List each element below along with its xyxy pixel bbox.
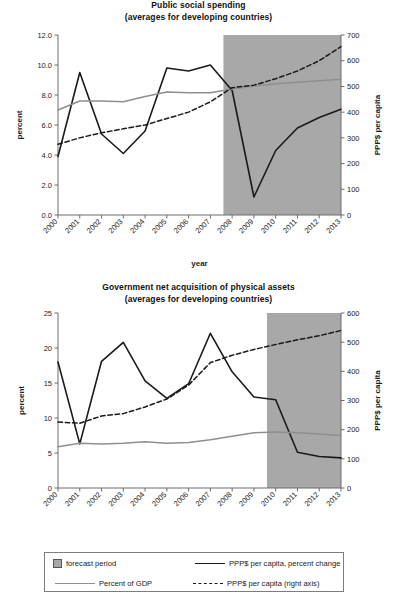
x-axis-tick-label: 2002 bbox=[85, 490, 103, 508]
x-axis-tick-label: 2003 bbox=[107, 217, 125, 235]
x-axis-tick-label: 2004 bbox=[128, 217, 146, 235]
x-axis-tick-label: 2002 bbox=[85, 217, 103, 235]
chart-panel-government-net-acquisition: Government net acquisition of physical a… bbox=[0, 282, 397, 532]
right-axis-tick-label: 100 bbox=[347, 185, 360, 194]
x-axis-tick-label: 2013 bbox=[324, 217, 342, 235]
right-axis-tick-label: 0 bbox=[347, 484, 351, 493]
x-axis-tick-label: 2004 bbox=[128, 490, 146, 508]
legend-label-ppp-level: PPP$ per capita (right axis) bbox=[227, 579, 319, 588]
solid-gray-line-icon bbox=[55, 583, 95, 584]
right-axis-tick-label: 100 bbox=[347, 455, 360, 464]
right-axis-tick-label: 700 bbox=[347, 31, 360, 40]
legend-row-1: forecast period PPP$ per capita, percent… bbox=[45, 553, 343, 573]
forecast-swatch-icon bbox=[53, 559, 62, 568]
legend-label-forecast-period: forecast period bbox=[66, 559, 116, 568]
x-axis-tick-label: 2010 bbox=[259, 490, 277, 508]
right-axis-tick-label: 600 bbox=[347, 309, 360, 318]
left-axis-tick-label: 25 bbox=[44, 309, 52, 318]
left-axis-tick-label: 2.0 bbox=[42, 181, 52, 190]
chart-title-top-line2: (averages for developing countries) bbox=[14, 12, 383, 24]
x-axis-tick-label: 2007 bbox=[194, 490, 212, 508]
right-axis-title: PPP$ per capita bbox=[373, 370, 382, 431]
chart-title-bottom-line2: (averages for developing countries) bbox=[14, 294, 383, 306]
right-axis-tick-label: 0 bbox=[347, 211, 351, 220]
left-axis-tick-label: 4.0 bbox=[42, 151, 52, 160]
chart-svg-bottom: 0510152025010020030040050060020002001200… bbox=[0, 305, 397, 530]
left-axis-tick-label: 8.0 bbox=[42, 91, 52, 100]
left-axis-tick-label: 5 bbox=[48, 449, 52, 458]
x-axis-tick-label: 2006 bbox=[172, 217, 190, 235]
right-axis-tick-label: 400 bbox=[347, 367, 360, 376]
left-axis-tick-label: 20 bbox=[44, 344, 52, 353]
right-axis-tick-label: 300 bbox=[347, 134, 360, 143]
x-axis-tick-label: 2008 bbox=[215, 490, 233, 508]
legend-item-percent-of-gdp: Percent of GDP bbox=[55, 573, 152, 593]
x-axis-tick-label: 2001 bbox=[63, 217, 81, 235]
right-axis-tick-label: 200 bbox=[347, 159, 360, 168]
x-axis-tick-label: 2000 bbox=[41, 217, 59, 235]
right-axis-tick-label: 500 bbox=[347, 338, 360, 347]
x-axis-tick-label: 2005 bbox=[150, 490, 168, 508]
chart-svg-top: 0.02.04.06.08.010.012.001002003004005006… bbox=[0, 23, 397, 273]
right-axis-tick-label: 400 bbox=[347, 108, 360, 117]
left-axis-tick-label: 6.0 bbox=[42, 121, 52, 130]
x-axis-tick-label: 2000 bbox=[41, 490, 59, 508]
legend-row-2: Percent of GDP PPP$ per capita (right ax… bbox=[45, 573, 343, 593]
dashed-black-line-icon bbox=[193, 583, 223, 584]
plot-area-top: 0.02.04.06.08.010.012.001002003004005006… bbox=[0, 23, 397, 273]
chart-panel-public-social-spending: Public social spending (averages for dev… bbox=[0, 0, 397, 282]
chart-title-top-line1: Public social spending bbox=[14, 0, 383, 12]
left-axis-title: percent bbox=[15, 110, 24, 139]
x-axis-tick-label: 2009 bbox=[237, 490, 255, 508]
right-axis-tick-label: 600 bbox=[347, 56, 360, 65]
legend-item-ppp-level: PPP$ per capita (right axis) bbox=[193, 573, 319, 593]
right-axis-title: PPP$ per capita bbox=[373, 94, 382, 155]
left-axis-title: percent bbox=[17, 386, 26, 415]
x-axis-tick-label: 2009 bbox=[237, 217, 255, 235]
legend-label-ppp-percent-change: PPP$ per capita, percent change bbox=[229, 559, 340, 568]
right-axis-tick-label: 200 bbox=[347, 425, 360, 434]
legend-label-percent-of-gdp: Percent of GDP bbox=[99, 579, 152, 588]
forecast-shade-region bbox=[223, 35, 341, 215]
left-axis-tick-label: 10.0 bbox=[37, 61, 52, 70]
left-axis-tick-label: 10 bbox=[44, 414, 52, 423]
figure-root: Public social spending (averages for dev… bbox=[0, 0, 397, 601]
x-axis-tick-label: 2011 bbox=[281, 490, 299, 508]
x-axis-tick-label: 2003 bbox=[107, 490, 125, 508]
right-axis-tick-label: 300 bbox=[347, 396, 360, 405]
x-axis-tick-label: 2006 bbox=[172, 490, 190, 508]
left-axis-tick-label: 15 bbox=[44, 379, 52, 388]
plot-area-bottom: 0510152025010020030040050060020002001200… bbox=[0, 305, 397, 530]
chart-title-top: Public social spending (averages for dev… bbox=[0, 0, 397, 23]
legend-item-ppp-percent-change: PPP$ per capita, percent change bbox=[195, 553, 340, 573]
solid-black-line-icon bbox=[195, 563, 225, 564]
left-axis-tick-label: 12.0 bbox=[37, 31, 52, 40]
chart-title-bottom: Government net acquisition of physical a… bbox=[0, 282, 397, 305]
x-axis-tick-label: 2008 bbox=[215, 217, 233, 235]
x-axis-tick-label: 2007 bbox=[194, 217, 212, 235]
x-axis-tick-label: 2010 bbox=[259, 217, 277, 235]
x-axis-tick-label: 2011 bbox=[281, 217, 299, 235]
x-axis-tick-label: 2012 bbox=[302, 490, 320, 508]
x-axis-tick-label: 2013 bbox=[324, 490, 342, 508]
x-axis-tick-label: 2012 bbox=[302, 217, 320, 235]
chart-legend: forecast period PPP$ per capita, percent… bbox=[44, 552, 344, 592]
legend-item-forecast-period: forecast period bbox=[53, 553, 116, 573]
x-axis-title: year bbox=[191, 259, 207, 268]
chart-title-bottom-line1: Government net acquisition of physical a… bbox=[14, 282, 383, 294]
right-axis-tick-label: 500 bbox=[347, 82, 360, 91]
x-axis-tick-label: 2001 bbox=[63, 490, 81, 508]
x-axis-tick-label: 2005 bbox=[150, 217, 168, 235]
